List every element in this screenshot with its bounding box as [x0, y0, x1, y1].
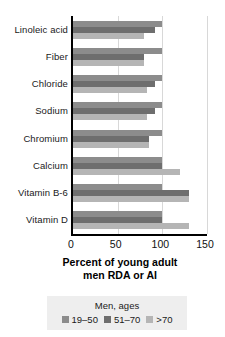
legend-item-label: 51–70	[114, 314, 140, 325]
bar-group	[73, 184, 207, 202]
bar	[73, 60, 144, 66]
bar	[73, 87, 147, 93]
bar	[73, 33, 144, 39]
legend-item-label: 19–50	[72, 314, 98, 325]
legend: Men, ages 19–5051–70>70	[47, 296, 187, 330]
bar-group	[73, 102, 207, 120]
legend-item[interactable]: 19–50	[62, 314, 98, 325]
category-label: Sodium	[0, 106, 68, 116]
bar-group	[73, 211, 207, 229]
x-axis-tick-labels: 050100150	[0, 238, 225, 254]
category-label: Chloride	[0, 79, 68, 89]
bar-group	[73, 75, 207, 93]
bar	[73, 169, 180, 175]
x-axis-title: Percent of young adult men RDA or AI	[40, 256, 200, 281]
bar	[73, 223, 189, 229]
x-tick-label: 50	[110, 238, 122, 251]
category-axis-labels: Linoleic acidFiberChlorideSodiumChromium…	[0, 16, 68, 234]
x-axis-title-line-2: men RDA or AI	[40, 269, 200, 282]
legend-swatch-icon	[62, 316, 69, 323]
category-label: Chromium	[0, 134, 68, 144]
category-label: Calcium	[0, 161, 68, 171]
category-label: Linoleic acid	[0, 25, 68, 35]
legend-swatch-icon	[104, 316, 111, 323]
legend-title: Men, ages	[51, 300, 183, 311]
x-axis-title-line-1: Percent of young adult	[40, 256, 200, 269]
plot-area	[71, 16, 207, 236]
bar-group	[73, 130, 207, 148]
category-label: Fiber	[0, 52, 68, 62]
legend-item[interactable]: 51–70	[104, 314, 140, 325]
legend-item-label: >70	[156, 314, 172, 325]
legend-items: 19–5051–70>70	[51, 314, 183, 325]
category-label: Vitamin B-6	[0, 188, 68, 198]
x-tick-label: 150	[196, 238, 214, 251]
bar-chart: Linoleic acidFiberChlorideSodiumChromium…	[0, 0, 225, 337]
bar-group	[73, 157, 207, 175]
category-label: Vitamin D	[0, 215, 68, 225]
bar-group	[73, 48, 207, 66]
x-tick-label: 0	[68, 238, 74, 251]
bar	[73, 142, 149, 148]
x-tick-label: 100	[152, 238, 170, 251]
plot-wrapper: Linoleic acidFiberChlorideSodiumChromium…	[0, 16, 225, 238]
legend-swatch-icon	[146, 316, 153, 323]
bar	[73, 196, 189, 202]
bar-group	[73, 21, 207, 39]
gridline	[207, 16, 208, 234]
bar	[73, 114, 147, 120]
legend-item[interactable]: >70	[146, 314, 172, 325]
